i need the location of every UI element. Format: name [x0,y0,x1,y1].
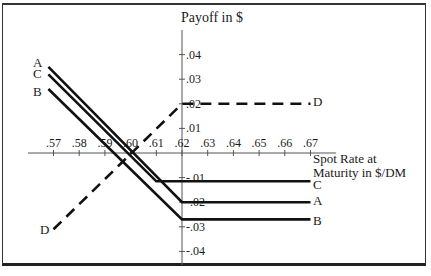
y-tick-label: -.04 [186,244,205,258]
y-tick-label: .03 [186,72,201,86]
label-c-right: C [313,177,322,192]
payoff-chart: .57.58.59.60.61.62.63.64.65.66.67 .04.03… [0,0,431,276]
y-tick-label: .04 [186,48,201,62]
x-tick-label: .66 [277,136,292,150]
y-tick-label: .01 [186,121,201,135]
label-d-left: D [40,222,49,237]
label-b-left: B [33,84,42,99]
y-axis-title: Payoff in $ [181,10,243,25]
x-tick-label: .62 [175,136,190,150]
x-tick-label: .58 [72,136,87,150]
x-axis-title-line1: Spot Rate at [313,151,377,166]
x-tick-label: .65 [252,136,267,150]
y-tick-label: -.03 [186,220,205,234]
x-tick-label: .61 [149,136,164,150]
label-b-right: B [313,213,322,228]
label-a-right: A [313,193,323,208]
x-tick-label: .64 [226,136,241,150]
x-axis-title-line2: Maturity in $/DM [313,165,407,180]
label-d-right: D [313,94,322,109]
x-tick-label: .57 [46,136,61,150]
label-c-left: C [33,66,42,81]
x-tick-label: .63 [200,136,215,150]
x-tick-label: .67 [303,136,318,150]
